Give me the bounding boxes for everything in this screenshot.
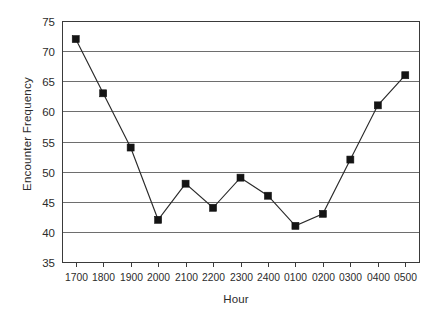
data-point-marker (237, 174, 244, 181)
gridlines-group (62, 22, 419, 263)
y-tick-labels-group: 354045505560657075 (42, 16, 55, 269)
plot-area: 354045505560657075 170018001900200021002… (0, 0, 440, 316)
x-tick-label: 2300 (230, 272, 253, 283)
x-tick-label: 2400 (257, 272, 280, 283)
x-tick-label: 0400 (367, 272, 390, 283)
x-tick-label: 1700 (65, 272, 88, 283)
x-tick-label: 2000 (147, 272, 170, 283)
data-point-marker (292, 222, 299, 229)
x-tick-labels-group: 1700180019002000210022002300240001000200… (65, 272, 417, 283)
y-tick-label: 70 (42, 46, 55, 58)
data-point-marker (72, 36, 79, 43)
x-tick-label: 1800 (92, 272, 115, 283)
data-point-marker (402, 72, 409, 79)
y-tick-label: 35 (42, 257, 55, 269)
data-point-marker (127, 144, 134, 151)
y-tick-label: 75 (42, 16, 55, 28)
y-tick-label: 65 (42, 76, 55, 88)
x-tick-label: 0100 (284, 272, 307, 283)
data-point-marker (155, 216, 162, 223)
y-tick-label: 55 (42, 137, 55, 149)
x-axis-title: Hour (56, 293, 416, 305)
x-tick-label: 1900 (120, 272, 143, 283)
y-tick-label: 60 (42, 106, 55, 118)
data-point-marker (319, 210, 326, 217)
x-tick-label: 2100 (175, 272, 198, 283)
x-tick-label: 0300 (339, 272, 362, 283)
y-tick-label: 50 (42, 167, 55, 179)
data-point-marker (264, 192, 271, 199)
data-point-marker (182, 180, 189, 187)
y-tick-label: 45 (42, 197, 55, 209)
data-point-marker (347, 156, 354, 163)
x-tick-label: 2200 (202, 272, 225, 283)
encounter-frequency-line-chart: Encounter Frequency 354045505560657075 1… (0, 0, 440, 316)
data-point-marker (210, 204, 217, 211)
y-tick-label: 40 (42, 227, 55, 239)
x-tick-label: 0500 (394, 272, 417, 283)
data-point-marker (374, 102, 381, 109)
data-series-line (76, 39, 406, 226)
data-point-marker (100, 90, 107, 97)
x-tick-label: 0200 (312, 272, 335, 283)
